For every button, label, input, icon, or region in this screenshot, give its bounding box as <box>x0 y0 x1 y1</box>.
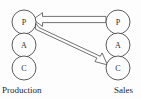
node-production-p-label: P <box>22 18 27 27</box>
group-label-production: Production <box>2 85 42 95</box>
group-production: P A C <box>12 10 36 80</box>
node-sales-a-label: A <box>115 41 121 50</box>
arrow-production-p-to-sales-c <box>36 23 108 65</box>
arrow-sales-p-to-production-p <box>33 13 106 27</box>
node-production-c-label: C <box>21 64 26 73</box>
node-sales-p-label: P <box>116 18 121 27</box>
group-label-sales: Sales <box>114 85 133 95</box>
node-sales-c-label: C <box>115 64 120 73</box>
diagram-canvas: P A C P A C Production Sales <box>0 0 141 99</box>
node-production-a-label: A <box>21 41 27 50</box>
group-sales: P A C <box>106 10 130 80</box>
process-diagram: P A C P A C Production Sales <box>0 0 141 99</box>
